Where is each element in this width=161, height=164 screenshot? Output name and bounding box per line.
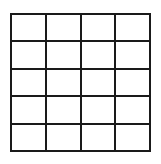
grid-cell [12,70,47,97]
grid-cell [82,70,117,97]
grid-cell [12,125,47,152]
grid-cell [82,125,117,152]
grid-cell [116,70,151,97]
grid-cell [12,97,47,124]
grid-cell [47,15,82,42]
grid-cell [82,15,117,42]
grid-cell [47,97,82,124]
grid-cell [116,42,151,69]
grid-cell [12,42,47,69]
grid-cell [116,15,151,42]
grid-cell [47,42,82,69]
empty-grid-table [10,13,151,152]
grid-cell [116,97,151,124]
grid-cell [47,70,82,97]
grid-cell [116,125,151,152]
grid-cell [82,97,117,124]
grid-cell [82,42,117,69]
grid-cell [12,15,47,42]
grid-cell [47,125,82,152]
